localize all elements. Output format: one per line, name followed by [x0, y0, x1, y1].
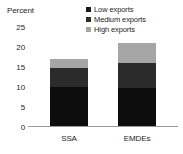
bar-ssa[interactable] — [50, 59, 88, 126]
bar-segment — [118, 43, 156, 63]
y-axis-tick-label: 15 — [5, 63, 25, 72]
legend-item[interactable]: Low exports — [86, 5, 146, 14]
legend-item-label: Low exports — [94, 5, 133, 14]
legend-item-label: Medium exports — [94, 15, 146, 24]
y-axis-unit-label: Percent — [7, 6, 34, 15]
plot-area — [28, 27, 178, 127]
y-axis-tick-labels: 0510152025 — [0, 27, 25, 127]
bar-emdes[interactable] — [118, 43, 156, 126]
stacked-bar-chart: Percent Low exportsMedium exportsHigh ex… — [0, 0, 183, 154]
y-axis-tick-label: 0 — [5, 123, 25, 132]
bar-segment — [118, 88, 156, 126]
x-axis-baseline — [28, 126, 178, 127]
y-axis-tick-label: 25 — [5, 23, 25, 32]
x-axis-category-label: SSA — [39, 134, 99, 143]
bar-segment — [50, 87, 88, 126]
bar-segment — [50, 59, 88, 68]
legend-swatch-icon — [86, 7, 91, 12]
y-axis-tick-label: 20 — [5, 43, 25, 52]
bar-segment — [50, 68, 88, 87]
bar-segment — [118, 63, 156, 87]
legend-swatch-icon — [86, 17, 91, 22]
legend-item[interactable]: Medium exports — [86, 15, 146, 24]
y-axis-tick-label: 5 — [5, 103, 25, 112]
y-axis-tick-label: 10 — [5, 83, 25, 92]
x-axis-category-label: EMDEs — [107, 134, 167, 143]
